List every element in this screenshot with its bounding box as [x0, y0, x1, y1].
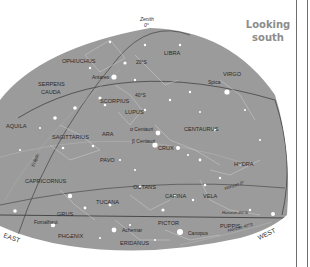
label-capricornus: CAPRICORNUS	[25, 178, 67, 184]
label-spica: Spica	[208, 79, 221, 85]
label-ophiuchus: OPHIUCHUS	[62, 58, 96, 64]
label-lupus: LUPUS	[125, 109, 144, 115]
label-vela: VELA	[203, 193, 218, 199]
label-sagittarius: SAGITTARIUS	[52, 134, 89, 140]
label-achernar: Achernar	[122, 227, 143, 233]
zenith-value: 0°	[144, 22, 149, 28]
label-pavo: PAVO	[100, 157, 115, 163]
label-serpens-2: CAUDA	[41, 89, 61, 95]
label-serpens-1: SERPENS	[38, 81, 65, 87]
label-eridanus: ERIDANUS	[120, 240, 149, 246]
label-carina: CARINA	[165, 193, 186, 199]
label-pictor: PICTOR	[158, 220, 179, 226]
label-virgo: VIRGO	[223, 71, 242, 77]
label-fomalhaut: Fomalhaut	[34, 219, 58, 225]
label-altitude-40: 40°S	[135, 92, 147, 98]
label-centaurus: CENTAURUS	[184, 126, 219, 132]
label-grus: GRUS	[57, 211, 73, 217]
label-alpha-centauri: α Centauri	[130, 126, 153, 132]
label-aquila: AQUILA	[6, 123, 27, 129]
label-hydra: HYDRA	[234, 161, 254, 167]
label-ara: ARA	[102, 131, 114, 137]
label-canopus: Canopus	[188, 230, 209, 236]
label-octans: OCTANS	[133, 184, 156, 190]
label-beta-centauri: β Centauri	[132, 138, 155, 144]
label-crux: CRUX	[158, 145, 174, 151]
page-divider-right	[307, 0, 308, 267]
label-tucana: TUCANA	[96, 199, 119, 205]
label-horizon-20: Horizon 20°S	[222, 210, 248, 215]
label-phoenix: PHOENIX	[58, 233, 83, 239]
page-divider-left	[296, 0, 297, 267]
label-libra: LIBRA	[164, 50, 180, 56]
label-scorpius: SCORPIUS	[100, 98, 129, 104]
label-altitude-20: 20°S	[136, 59, 148, 65]
label-antares: Antares	[92, 74, 110, 80]
